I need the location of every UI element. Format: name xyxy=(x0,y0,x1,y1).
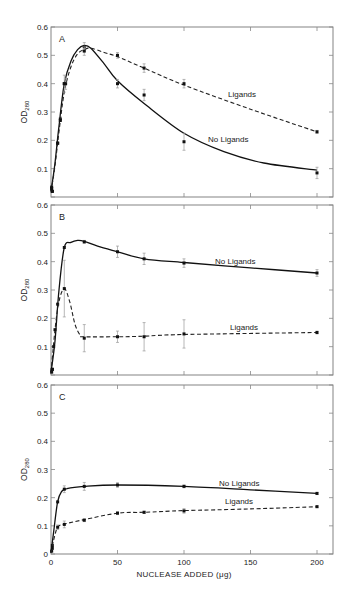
data-point xyxy=(83,519,86,522)
data-point xyxy=(50,187,53,190)
y-tick-label: 0.2 xyxy=(37,314,49,323)
chart-panels: 0.10.20.30.40.50.6OD280ANo LigandsLigand… xyxy=(19,23,333,567)
data-point xyxy=(116,82,119,85)
data-point xyxy=(63,488,66,491)
data-point xyxy=(183,140,186,143)
data-point xyxy=(316,492,319,495)
y-tick-label: 0.3 xyxy=(37,286,49,295)
data-point xyxy=(143,257,146,260)
data-point xyxy=(83,50,86,53)
data-point xyxy=(316,171,319,174)
data-point xyxy=(59,119,62,122)
data-point xyxy=(116,335,119,338)
data-point xyxy=(316,130,319,133)
data-point xyxy=(63,246,66,249)
series-ligands: Ligands xyxy=(50,47,318,193)
series-no-ligands: No Ligands xyxy=(50,479,318,553)
panel-letter: A xyxy=(59,34,65,44)
data-point xyxy=(51,368,54,371)
series-label: No Ligands xyxy=(219,479,259,488)
y-tick-label: 0.5 xyxy=(37,51,49,60)
data-point xyxy=(56,526,59,529)
series-no-ligands: No Ligands xyxy=(50,43,318,193)
panel-c: 00.10.20.30.40.50.6050100150200OD280CNo … xyxy=(19,381,333,567)
y-tick-label: 0.4 xyxy=(37,437,49,446)
series-curve xyxy=(51,507,317,553)
x-tick-label: 100 xyxy=(177,558,191,567)
series-label: Ligands xyxy=(230,323,258,332)
data-point xyxy=(56,500,59,503)
y-axis-label: OD280 xyxy=(19,100,30,123)
data-point xyxy=(143,511,146,514)
data-point xyxy=(83,337,86,340)
series-label: Ligands xyxy=(225,497,253,506)
data-point xyxy=(56,142,59,145)
y-tick-label: 0.1 xyxy=(37,343,49,352)
data-point xyxy=(63,287,66,290)
x-tick-label: 0 xyxy=(49,558,54,567)
y-tick-label: 0.3 xyxy=(37,466,49,475)
data-point xyxy=(116,483,119,486)
data-point xyxy=(143,67,146,70)
y-tick-label: 0.6 xyxy=(37,381,49,390)
data-point xyxy=(51,547,54,550)
y-tick-label: 0.5 xyxy=(37,409,49,418)
y-tick-label: 0.2 xyxy=(37,494,49,503)
series-no-ligands: No Ligands xyxy=(50,240,318,373)
plot-frame xyxy=(51,205,333,375)
x-tick-label: 150 xyxy=(244,558,258,567)
series-ligands: Ligands xyxy=(51,497,319,553)
series-label: No Ligands xyxy=(208,135,248,144)
y-tick-label: 0.3 xyxy=(37,108,49,117)
data-point xyxy=(143,94,146,97)
data-point xyxy=(143,335,146,338)
data-point xyxy=(83,240,86,243)
data-point xyxy=(183,262,186,265)
series-curve xyxy=(51,485,317,553)
panel-b: 0.10.20.30.40.50.6OD280BNo LigandsLigand… xyxy=(19,201,333,375)
data-point xyxy=(83,485,86,488)
y-tick-label: 0.2 xyxy=(37,136,49,145)
data-point xyxy=(183,509,186,512)
series-label: No Ligands xyxy=(215,257,255,266)
x-tick-label: 50 xyxy=(113,558,122,567)
data-point xyxy=(116,54,119,57)
data-point xyxy=(183,82,186,85)
y-axis-label: OD280 xyxy=(19,457,30,480)
y-tick-label: 0.6 xyxy=(37,201,49,210)
x-tick-label: 200 xyxy=(310,558,324,567)
series-ligands: Ligands xyxy=(51,260,319,372)
y-tick-label: 0.5 xyxy=(37,229,49,238)
series-label: Ligands xyxy=(228,90,256,99)
y-tick-label: 0.4 xyxy=(37,80,49,89)
data-point xyxy=(183,332,186,335)
plot-frame xyxy=(51,27,333,197)
y-tick-label: 0.4 xyxy=(37,258,49,267)
data-point xyxy=(183,485,186,488)
panel-letter: C xyxy=(59,392,66,402)
data-point xyxy=(316,331,319,334)
data-point xyxy=(116,250,119,253)
data-point xyxy=(52,345,55,348)
data-point xyxy=(116,512,119,515)
data-point xyxy=(64,82,67,85)
series-curve xyxy=(51,48,317,191)
y-tick-label: 0.6 xyxy=(37,23,49,32)
data-point xyxy=(316,272,319,275)
nuclease-figure: 0.10.20.30.40.50.6OD280ANo LigandsLigand… xyxy=(0,0,349,596)
data-point xyxy=(316,505,319,508)
panel-a: 0.10.20.30.40.50.6OD280ANo LigandsLigand… xyxy=(19,23,333,197)
y-axis-label: OD280 xyxy=(19,278,30,301)
y-tick-label: 0.1 xyxy=(37,165,49,174)
plot-frame xyxy=(51,385,333,554)
data-point xyxy=(53,328,56,331)
y-tick-label: 0.1 xyxy=(37,522,49,531)
x-axis-label: NUCLEASE ADDED (μg) xyxy=(136,570,231,579)
data-point xyxy=(63,523,66,526)
panel-letter: B xyxy=(59,212,65,222)
data-point xyxy=(51,190,54,193)
